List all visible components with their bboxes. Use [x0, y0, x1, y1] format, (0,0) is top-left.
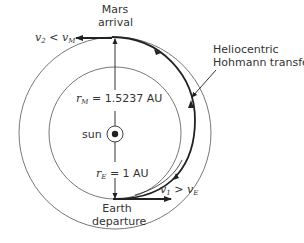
transfer-label: Heliocentric Hohmann transfer — [213, 43, 304, 69]
v1-label: v1 > vE — [160, 183, 198, 200]
mars-arrival-line2: arrival — [98, 16, 132, 29]
earth-departure-label: Earth departure — [92, 202, 142, 228]
v1-relation-sub: E — [193, 189, 198, 197]
sun-label: sun — [82, 128, 102, 141]
mars-arrival-line1: Mars — [98, 3, 132, 16]
r-earth-value: = 1 AU — [106, 167, 148, 180]
v2-relation-sub: M — [68, 37, 75, 45]
earth-departure-line1: Earth — [92, 202, 142, 215]
r-earth-label: rE = 1 AU — [96, 167, 149, 184]
v2-label: v2 < vM — [35, 31, 75, 48]
sun-dot — [112, 131, 118, 137]
transfer-label-line2: Hohmann transfer — [213, 56, 304, 69]
r-mars-label: rM = 1.5237 AU — [76, 92, 162, 109]
transfer-leader-line — [192, 70, 216, 97]
transfer-label-line1: Heliocentric — [213, 43, 304, 56]
mars-arrival-label: Mars arrival — [98, 3, 132, 29]
r-mars-value: = 1.5237 AU — [88, 92, 162, 105]
earth-departure-line2: departure — [92, 215, 142, 228]
v2-relation: < v — [46, 31, 68, 44]
v1-relation: > v — [171, 183, 193, 196]
